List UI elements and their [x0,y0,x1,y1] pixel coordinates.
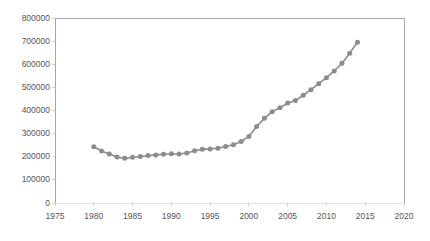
data-point-marker [161,152,166,157]
data-point-marker [285,101,290,106]
data-point-marker [246,134,251,139]
data-point-marker [355,40,360,45]
data-point-marker [301,93,306,98]
data-point-marker [169,151,174,156]
x-axis-label-2010: 2010 [306,212,346,221]
y-axis-label-0: 0 [45,199,50,208]
x-axis-label-1975: 1975 [35,212,75,221]
data-point-marker [347,51,352,56]
y-axis-label-500000: 500000 [22,83,50,92]
x-axis-label-2000: 2000 [229,212,269,221]
data-point-marker [293,98,298,103]
axis-lines [52,18,404,206]
y-axis-label-400000: 400000 [22,106,50,115]
data-point-marker [208,146,213,151]
x-axis-label-2020: 2020 [384,212,424,221]
data-point-marker [231,142,236,147]
y-axis-label-800000: 800000 [22,14,50,23]
data-point-marker [177,151,182,156]
x-axis-label-1980: 1980 [74,212,114,221]
y-axis-label-200000: 200000 [22,152,50,161]
chart-plot-area [0,0,430,241]
data-point-marker [254,124,259,129]
data-point-marker [91,144,96,149]
data-point-marker [138,154,143,159]
data-point-marker [270,109,275,114]
y-axis-label-700000: 700000 [22,37,50,46]
series-line [94,42,358,158]
data-series-layer [91,40,360,161]
data-point-marker [316,81,321,86]
y-axis-label-300000: 300000 [22,129,50,138]
data-point-marker [239,139,244,144]
data-point-marker [324,75,329,80]
data-point-marker [277,105,282,110]
data-point-marker [192,148,197,153]
x-axis-label-1985: 1985 [113,212,153,221]
data-point-marker [153,152,158,157]
data-point-marker [115,154,120,159]
data-point-marker [99,148,104,153]
data-point-marker [146,153,151,158]
data-point-marker [308,87,313,92]
data-point-marker [107,151,112,156]
data-point-marker [200,147,205,152]
data-point-marker [122,156,127,161]
x-axis-label-2005: 2005 [268,212,308,221]
data-point-marker [223,144,228,149]
data-point-marker [339,61,344,66]
x-axis-label-1990: 1990 [151,212,191,221]
data-point-marker [130,155,135,160]
y-axis-label-600000: 600000 [22,60,50,69]
x-axis-label-1995: 1995 [190,212,230,221]
chart-container: 0100000200000300000400000500000600000700… [0,0,430,241]
data-point-marker [184,151,189,156]
y-axis-label-100000: 100000 [22,175,50,184]
data-point-marker [215,146,220,151]
data-point-marker [262,116,267,121]
data-point-marker [332,68,337,73]
x-axis-label-2015: 2015 [345,212,385,221]
